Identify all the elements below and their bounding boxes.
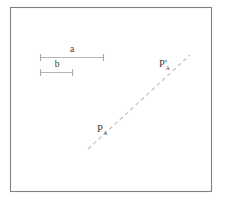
point-p-subscript: A	[103, 130, 107, 136]
figure-canvas: a b PA P'A	[0, 0, 226, 205]
figure-border	[11, 8, 212, 192]
point-p-letter: P	[97, 123, 103, 134]
geometry-figure: a b PA P'A	[0, 0, 226, 205]
point-p-prime-subscript: A	[166, 65, 170, 71]
segment-b-label: b	[55, 59, 60, 69]
